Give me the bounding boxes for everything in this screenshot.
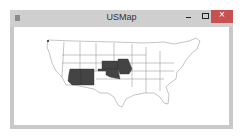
title-bar[interactable]: USMap xyxy=(10,10,233,27)
state-new-mexico xyxy=(81,69,94,85)
map-canvas xyxy=(14,27,229,125)
us-map xyxy=(14,27,229,125)
minimize-button[interactable] xyxy=(182,10,196,23)
state-kansas xyxy=(102,61,118,69)
close-button[interactable] xyxy=(211,10,233,23)
state-arizona xyxy=(68,69,81,85)
app-window: USMap xyxy=(10,10,233,129)
maximize-button[interactable] xyxy=(198,10,212,23)
